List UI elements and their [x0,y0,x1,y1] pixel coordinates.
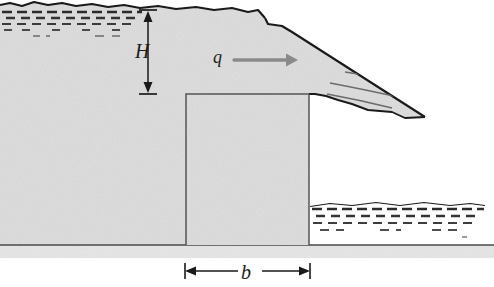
height-dimension-label: H [135,41,149,61]
foundation-block [186,94,309,245]
engineering-diagram-figure: H b q [0,0,494,287]
width-dimension-label: b [241,262,251,282]
ground-band [0,245,494,258]
tailwater-region [310,202,485,237]
diagram-canvas [0,0,494,287]
surcharge-load-label: q [213,48,222,66]
